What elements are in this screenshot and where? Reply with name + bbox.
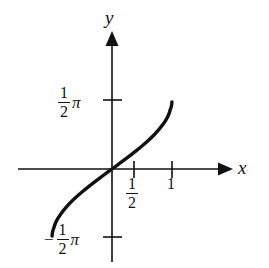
x-tick-label-one-half: 1 2	[126, 176, 138, 211]
fraction-denominator: 2	[126, 194, 138, 211]
figure-canvas: y x 1 2 π − 1 2 π 1 2 1	[0, 0, 269, 268]
pi-symbol: π	[70, 231, 80, 248]
fraction-denominator: 2	[57, 240, 69, 257]
fraction-denominator: 2	[58, 103, 70, 120]
x-axis-arrowhead	[218, 163, 233, 176]
y-axis-label: y	[105, 8, 113, 27]
fraction-numerator: 1	[58, 85, 70, 103]
y-tick-label-half-pi: 1 2 π	[58, 85, 81, 120]
y-tick-label-negative-half-pi: − 1 2 π	[44, 222, 79, 257]
x-tick-label-one: 1	[167, 176, 175, 192]
y-axis-arrowhead	[106, 31, 119, 46]
graph-plot	[0, 0, 269, 268]
fraction-numerator: 1	[57, 222, 69, 240]
fraction-one-half: 1 2	[126, 176, 138, 211]
pi-symbol: π	[71, 94, 81, 111]
fraction-numerator: 1	[126, 176, 138, 194]
x-axis-label: x	[238, 158, 246, 177]
fraction-one-half: 1 2	[58, 85, 70, 120]
fraction-one-half: 1 2	[57, 222, 69, 257]
minus-sign: −	[44, 231, 56, 248]
